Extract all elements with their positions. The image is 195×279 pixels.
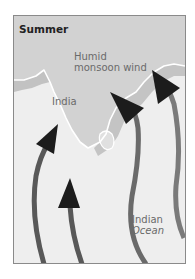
wind-label-line1: Humid: [74, 51, 107, 62]
wind-label-line2: monsoon wind: [74, 62, 147, 73]
ocean-label-line2: Ocean: [132, 225, 164, 236]
monsoon-map-frame: Summer Humid monsoon wind India Indian O…: [13, 15, 186, 264]
season-title: Summer: [19, 23, 68, 35]
ocean-label-line1: Indian: [132, 214, 163, 225]
india-label: India: [52, 96, 77, 107]
